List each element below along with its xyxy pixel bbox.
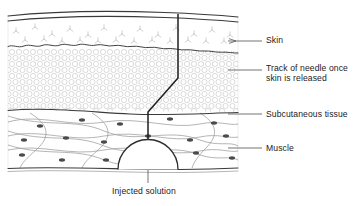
subcutaneous-fat-cell-texture [6, 49, 239, 113]
label-muscle: Muscle [266, 143, 294, 153]
epidermis-inner-line [8, 17, 238, 22]
needle-track-path [148, 14, 178, 144]
label-subcutaneous-tissue: Subcutaneous tissue [266, 109, 348, 119]
muscle-bottom-line-2 [8, 171, 238, 173]
dermis-texture [13, 24, 233, 43]
anatomy-cross-section-diagram [0, 0, 359, 206]
figure-intramuscular-injection: Skin Track of needle once skin is releas… [0, 0, 359, 206]
label-skin: Skin [266, 35, 283, 45]
injected-solution-dome [118, 140, 178, 170]
label-needle-track: Track of needle once skin is released [266, 63, 358, 84]
caption-injected-solution: Injected solution [112, 186, 176, 196]
